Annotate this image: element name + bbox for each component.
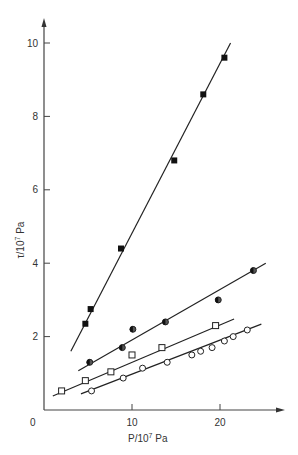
half-filled-circle-marker [87, 359, 93, 365]
open-circle-marker [120, 375, 126, 381]
half-filled-circle-marker [250, 268, 256, 274]
open-circle-marker [164, 359, 170, 365]
fit-lines [53, 43, 266, 396]
open-circle-marker [189, 352, 195, 358]
y-tick-label: 10 [27, 38, 39, 49]
x-axis-arrow-icon [276, 408, 285, 413]
open-square-marker [129, 352, 135, 358]
open-circle-marker [221, 338, 227, 344]
open-square-marker [82, 378, 88, 384]
tick-labels: 01020246810 [27, 38, 226, 429]
data-markers [59, 55, 257, 394]
half-filled-circle-marker [130, 326, 136, 332]
filled-square-marker [118, 246, 124, 252]
half-filled-circle-marker [215, 297, 221, 303]
open-square-marker [108, 369, 114, 375]
open-circle-marker [209, 345, 215, 351]
fit-line [53, 319, 234, 396]
y-axis-label: τ/107 Pa [14, 221, 26, 258]
open-square-marker [59, 388, 65, 394]
filled-square-marker [82, 321, 88, 327]
x-tick-label: 0 [30, 417, 36, 428]
fit-line [78, 263, 265, 371]
open-circle-marker [230, 334, 236, 340]
fit-line [71, 43, 231, 351]
open-square-marker [213, 323, 219, 329]
filled-square-marker [221, 55, 227, 61]
axes [42, 18, 286, 413]
x-tick-label: 10 [126, 417, 138, 428]
y-axis-arrow-icon [42, 18, 47, 27]
filled-square-marker [200, 91, 206, 97]
open-circle-marker [140, 365, 146, 371]
y-tick-label: 2 [32, 331, 38, 342]
y-tick-label: 6 [32, 184, 38, 195]
y-tick-label: 4 [32, 258, 38, 269]
filled-square-marker [171, 157, 177, 163]
open-circle-marker [198, 348, 204, 354]
open-circle-marker [89, 388, 95, 394]
x-tick-label: 20 [214, 417, 226, 428]
filled-square-marker [88, 306, 94, 312]
chart: 01020246810 P/107 Pa τ/107 Pa [0, 0, 298, 455]
half-filled-circle-marker [119, 345, 125, 351]
half-filled-circle-marker [162, 319, 168, 325]
open-square-marker [159, 345, 165, 351]
y-tick-label: 8 [32, 111, 38, 122]
x-axis-label: P/107 Pa [128, 432, 168, 444]
open-circle-marker [244, 327, 250, 333]
